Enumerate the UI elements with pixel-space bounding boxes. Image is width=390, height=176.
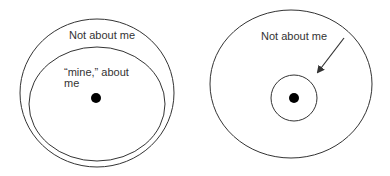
- left-diagram: Not about me “mine,” about me: [20, 19, 174, 167]
- right-diagram: Not about me: [210, 10, 372, 158]
- right-outer-label: Not about me: [261, 30, 327, 42]
- left-outer-label: Not about me: [69, 29, 135, 41]
- arrow-icon: [318, 38, 344, 72]
- left-outer-ellipse: [20, 19, 174, 167]
- left-center-dot: [91, 93, 101, 103]
- right-center-dot: [289, 93, 299, 103]
- left-inner-ellipse: [29, 47, 165, 161]
- left-inner-label-line2: me: [64, 77, 79, 89]
- self-boundary-diagrams: Not about me “mine,” about me Not about …: [0, 0, 390, 176]
